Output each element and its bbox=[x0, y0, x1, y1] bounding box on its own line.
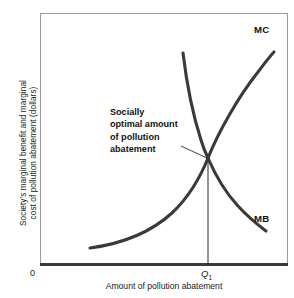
socially-optimal-annotation: Socially optimal amount of pollution aba… bbox=[110, 106, 202, 156]
annotation-line-3: of pollution bbox=[110, 131, 202, 143]
annotation-line-1: Socially bbox=[110, 106, 202, 118]
x-tick-label-q1: Q1 bbox=[201, 268, 212, 281]
annotation-line-4: abatement bbox=[110, 143, 202, 155]
chart-container: Society's marginal benefit and marginal … bbox=[0, 0, 294, 298]
y-axis-label-line1: Society's marginal benefit and marginal bbox=[19, 80, 28, 226]
annotation-line-2: optimal amount bbox=[110, 118, 202, 130]
y-axis-label-line2: cost of pollution abatement (dollars) bbox=[29, 28, 40, 278]
x-axis-label: Amount of pollution abatement bbox=[40, 281, 288, 291]
y-axis-label: Society's marginal benefit and marginal … bbox=[8, 28, 50, 278]
mb-curve-label: MB bbox=[254, 213, 269, 224]
origin-label: 0 bbox=[30, 268, 35, 278]
x-tick-label-q1-sub: 1 bbox=[208, 274, 212, 281]
mc-curve-label: MC bbox=[254, 24, 269, 35]
